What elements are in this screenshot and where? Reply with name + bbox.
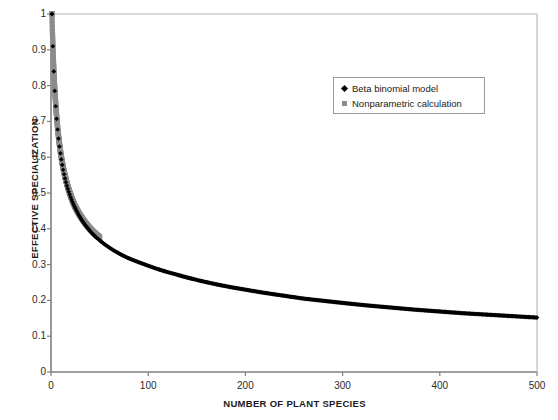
chart-legend: Beta binomial model Nonparametric calcul… xyxy=(333,77,485,114)
x-tick-label: 500 xyxy=(507,381,558,391)
x-tick-label: 300 xyxy=(313,381,373,391)
x-tick-label: 400 xyxy=(410,381,470,391)
legend-item-nonparametric: Nonparametric calculation xyxy=(339,96,484,111)
legend-item-beta-binomial: Beta binomial model xyxy=(339,81,484,96)
x-tick-label: 100 xyxy=(118,381,178,391)
chart-figure: 00.10.20.30.40.50.60.70.80.91 0100200300… xyxy=(0,0,558,420)
x-tick-label-group: 0100200300400500 xyxy=(0,0,558,420)
x-tick-label: 0 xyxy=(21,381,81,391)
x-axis-title: NUMBER OF PLANT SPECIES xyxy=(51,398,538,409)
y-axis-title: EFFECTIVE SPECIALIZATION xyxy=(29,69,40,309)
legend-square-marker-icon xyxy=(339,101,348,106)
x-tick-label: 200 xyxy=(215,381,275,391)
legend-diamond-marker-icon xyxy=(339,86,348,91)
legend-label-beta-binomial: Beta binomial model xyxy=(352,83,438,94)
legend-label-nonparametric: Nonparametric calculation xyxy=(352,98,462,109)
